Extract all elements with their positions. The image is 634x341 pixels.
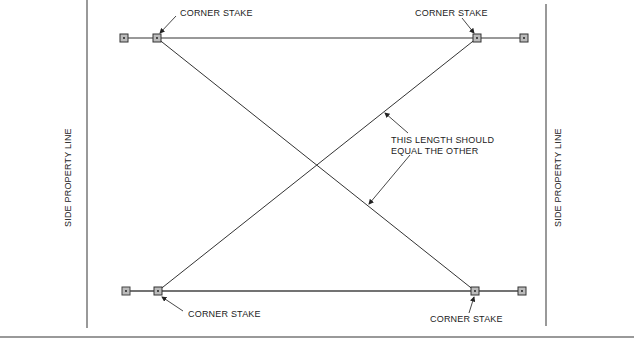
stake-corner-bottom-right: [471, 287, 479, 295]
leader-bottom-left: [162, 297, 183, 311]
leader-bottom-right: [469, 297, 474, 313]
label-corner-bottom-left: CORNER STAKE: [188, 309, 261, 319]
label-corner-bottom-right: CORNER STAKE: [430, 314, 503, 324]
label-diagonal-note-line1: THIS LENGTH SHOULD: [391, 135, 494, 145]
diagonal-tl-br: [157, 38, 475, 291]
label-side-property-left: SIDE PROPERTY LINE: [63, 128, 73, 227]
stake-layout-diagram: CORNER STAKE CORNER STAKE CORNER STAKE C…: [0, 0, 634, 341]
stake-corner-bottom-left: [154, 287, 162, 295]
label-side-property-right: SIDE PROPERTY LINE: [553, 128, 563, 227]
stake-batter-bottom-right: [518, 287, 526, 295]
label-corner-top-right: CORNER STAKE: [415, 8, 488, 18]
stake-corner-top-left: [153, 34, 161, 42]
diagonal-tr-bl: [158, 38, 477, 291]
leader-diagonal-upper: [385, 113, 408, 133]
label-diagonal-note-line2: EQUAL THE OTHER: [391, 146, 479, 156]
leader-top-left: [160, 16, 176, 33]
leader-diagonal-lower: [369, 155, 410, 204]
stake-batter-bottom-left: [122, 287, 130, 295]
leader-top-right: [462, 18, 474, 33]
stake-batter-top-left: [120, 34, 128, 42]
stake-batter-top-right: [520, 34, 528, 42]
stake-corner-top-right: [473, 34, 481, 42]
label-corner-top-left: CORNER STAKE: [180, 8, 253, 18]
